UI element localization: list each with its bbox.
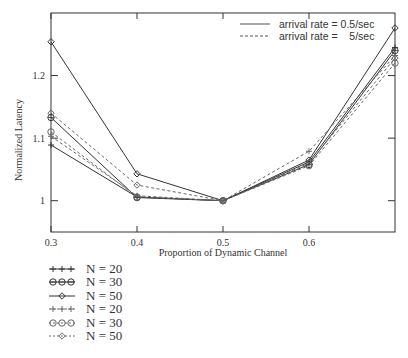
inset-legend-solid-label: arrival rate = 0.5/sec xyxy=(279,18,374,30)
series-4 xyxy=(48,60,398,204)
series-line xyxy=(51,58,395,201)
axis-ticks: 0.30.40.50.611.11.2 xyxy=(33,13,396,248)
x-axis-title: Proportion of Dynamic Channel xyxy=(159,247,288,258)
series-0 xyxy=(48,44,398,203)
diamond-solid-legend-icon xyxy=(48,290,76,302)
diamond-dashed-legend-icon xyxy=(48,330,76,342)
series-5 xyxy=(48,55,398,204)
legend-item: N = 50 xyxy=(48,330,122,344)
series-layer xyxy=(48,25,398,204)
y-tick-label: 1.2 xyxy=(33,70,46,81)
legend-label: N = 50 xyxy=(86,328,122,344)
inset-legend-dashed-label: arrival rate = 5/sec xyxy=(279,30,374,42)
series-1 xyxy=(48,47,398,204)
plus-solid-legend-icon xyxy=(48,263,76,275)
x-tick-label: 0.3 xyxy=(45,237,58,248)
circle-solid-legend-icon xyxy=(48,276,76,288)
y-axis-title: Normalized Latency xyxy=(13,99,24,181)
inset-legend: arrival rate = 0.5/sec arrival rate = 5/… xyxy=(240,18,374,42)
series-2 xyxy=(48,25,398,204)
x-tick-label: 0.6 xyxy=(303,237,316,248)
series-line xyxy=(51,51,395,201)
x-tick-label: 0.4 xyxy=(131,237,144,248)
plus-marker-icon xyxy=(48,142,54,148)
plus-marker-icon xyxy=(59,306,65,312)
series-3 xyxy=(48,53,398,204)
series-line xyxy=(51,47,395,200)
plus-marker-icon xyxy=(68,266,74,272)
series-legend: N = 20N = 30N = 50N = 20N = 30N = 50 xyxy=(48,262,122,343)
series-line xyxy=(51,63,395,201)
series-line xyxy=(51,56,395,201)
line-chart: 0.30.40.50.611.11.2 arrival rate = 0.5/s… xyxy=(0,0,408,260)
plus-marker-icon xyxy=(50,266,56,272)
circle-dashed-legend-icon xyxy=(48,317,76,329)
y-tick-label: 1.1 xyxy=(33,133,46,144)
y-tick-label: 1 xyxy=(40,195,45,206)
series-line xyxy=(51,28,395,201)
plus-marker-icon xyxy=(59,266,65,272)
plus-marker-icon xyxy=(50,306,56,312)
plus-dashed-legend-icon xyxy=(48,303,76,315)
plus-marker-icon xyxy=(68,306,74,312)
